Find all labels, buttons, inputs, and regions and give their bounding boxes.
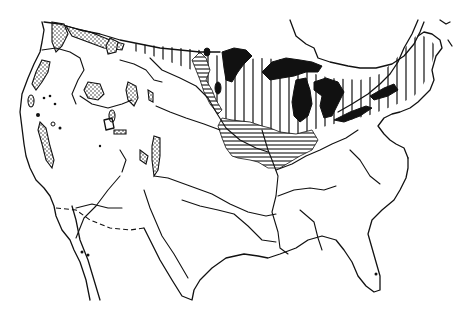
river-colorado	[76, 176, 120, 238]
stipple-yellowstone	[126, 82, 138, 106]
river-rio-grande	[144, 190, 188, 278]
stipple-cascades	[32, 60, 50, 90]
lake-bonneville	[104, 118, 114, 130]
stipple-colorado	[152, 136, 160, 176]
river-tennessee	[278, 186, 336, 196]
river-columbia	[42, 48, 84, 104]
river-green	[120, 150, 126, 172]
river-red	[182, 200, 276, 242]
river-gila	[76, 204, 122, 208]
coastline-texas-gulf	[144, 158, 408, 300]
stipple-colorado-2	[140, 150, 148, 164]
us-map	[0, 0, 468, 315]
stipple-cascades-north	[52, 22, 68, 52]
mexico-border	[56, 208, 144, 230]
stipple-sierra	[38, 122, 54, 168]
canada-maritime	[440, 20, 452, 46]
river-platte	[156, 106, 220, 130]
stipple-oregon	[28, 95, 34, 107]
coastline-west	[20, 22, 90, 300]
stipple-uinta	[114, 130, 126, 134]
stipple-idaho	[84, 82, 104, 100]
river-arkansas	[154, 176, 276, 216]
river-appalachian	[350, 150, 380, 184]
stipple-wind-river	[148, 90, 153, 102]
lake-small-1	[215, 82, 221, 94]
river-alabama	[300, 210, 322, 250]
